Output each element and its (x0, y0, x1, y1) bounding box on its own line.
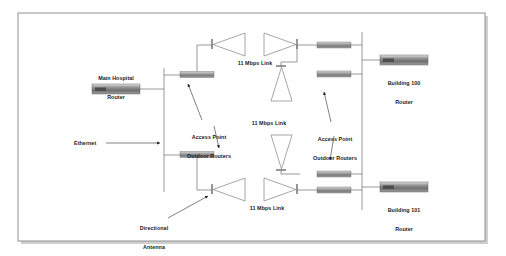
link-top-label: 11 Mbps Link (224, 60, 286, 66)
building-100-router-label-line2: Router (372, 99, 436, 105)
main-hospital-router-label-line1: Main Hospital (84, 75, 148, 81)
building-100-router-label: Building 100 Router (372, 67, 436, 118)
access-point-right-label-line2: Outdoor Routers (304, 155, 366, 161)
directional-antenna-label-line1: Directional (132, 225, 176, 231)
access-point-left-label-line1: Access Point (178, 134, 240, 140)
ethernet-label: Ethernet (74, 140, 108, 146)
access-point-right-1-body (317, 42, 351, 48)
building-101-router-port (383, 186, 394, 190)
access-point-right-4-body (317, 187, 351, 193)
access-point-right-2-body (317, 71, 351, 77)
access-point-left-label-line2: Outdoor Routers (178, 153, 240, 159)
main-hospital-router-label-line2: Router (84, 94, 148, 100)
link-bottom-label: 11 Mbps Link (236, 205, 298, 211)
access-point-outdoor-routers-right-label: Access Point Outdoor Routers (304, 123, 366, 174)
building-101-router-label-line2: Router (372, 226, 436, 232)
building-100-router-label-line1: Building 100 (372, 80, 436, 86)
access-point-outdoor-routers-left-label: Access Point Outdoor Routers (178, 121, 240, 172)
building-101-router-label: Building 101 Router (372, 194, 436, 245)
main-hospital-router-label: Main Hospital Router (84, 62, 148, 113)
access-point-right-label-line1: Access Point (304, 136, 366, 142)
building-101-router-label-line1: Building 101 (372, 207, 436, 213)
directional-antenna-label: Directional Antenna (132, 212, 176, 256)
link-center-label: 11 Mbps Link (238, 120, 300, 126)
building-100-router-port (383, 59, 394, 63)
access-point-upper-left-body (180, 72, 214, 78)
network-diagram: Main Hospital Router Building 100 Router… (0, 0, 506, 256)
directional-antenna-label-line2: Antenna (132, 244, 176, 250)
